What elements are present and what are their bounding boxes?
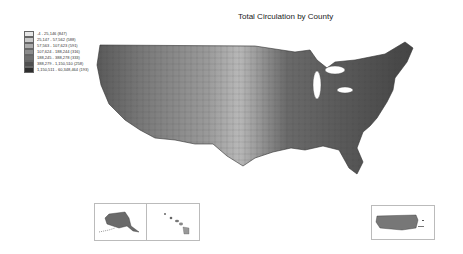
- legend: -4 - 25,146 (847) 25,147 - 57,562 (588) …: [24, 31, 89, 73]
- legend-item: 1,150,511 - 60,348,464 (193): [24, 67, 89, 73]
- us-county-map: [95, 40, 425, 175]
- map-title: Total Circulation by County: [238, 12, 333, 21]
- legend-label: 1,150,511 - 60,348,464 (193): [37, 67, 89, 73]
- hawaii-map: [147, 204, 199, 240]
- inset-alaska: [94, 203, 148, 241]
- alaska-map: [95, 204, 147, 240]
- legend-swatch: [24, 67, 34, 73]
- inset-hawaii: [146, 203, 200, 241]
- inset-puerto-rico: [371, 205, 435, 240]
- puerto-rico-map: [372, 206, 434, 239]
